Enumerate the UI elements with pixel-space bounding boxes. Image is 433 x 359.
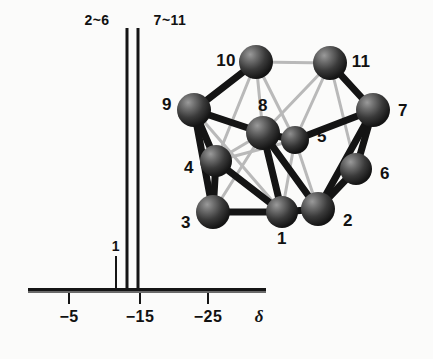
atom-11 — [313, 46, 347, 80]
atom-7 — [356, 93, 390, 127]
atom-label-7: 7 — [398, 101, 408, 121]
atom-label-3: 3 — [181, 213, 191, 233]
atom-8 — [246, 116, 280, 150]
atom-label-9: 9 — [162, 95, 172, 115]
atom-label-4: 4 — [184, 158, 194, 178]
atom-5 — [281, 126, 309, 154]
atom-4 — [200, 145, 232, 177]
atom-9 — [177, 93, 211, 127]
atom-label-8: 8 — [258, 96, 268, 116]
atom-6 — [340, 153, 372, 185]
atom-2 — [301, 192, 335, 226]
atom-label-11: 11 — [352, 52, 371, 72]
atom-label-10: 10 — [216, 51, 236, 71]
atom-label-5: 5 — [317, 127, 327, 147]
atom-label-1: 1 — [277, 229, 287, 249]
atom-3 — [196, 195, 230, 229]
atom-label-2: 2 — [343, 211, 353, 231]
atom-1 — [266, 196, 298, 228]
atom-10 — [239, 45, 273, 79]
figure-root: 2~6 7~11 1 −5 −15 −25 δ — [0, 0, 433, 359]
atom-label-6: 6 — [380, 164, 390, 184]
cluster-structure: 1 2 3 4 5 6 7 8 9 10 11 — [0, 0, 433, 359]
